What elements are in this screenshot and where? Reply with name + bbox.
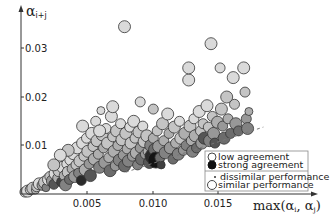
- similar-performance-marker-icon: [208, 181, 217, 190]
- data-point: [148, 104, 158, 114]
- y-axis-label: αi+j: [26, 3, 47, 20]
- data-point: [245, 108, 253, 116]
- y-ticks: 0.03 0.02 0.01: [21, 43, 47, 151]
- data-point: [94, 125, 106, 137]
- data-point: [116, 119, 126, 129]
- data-point: [107, 101, 119, 113]
- strong-agreement-marker-icon: [208, 161, 216, 169]
- data-point: [215, 63, 225, 73]
- data-point: [238, 62, 250, 74]
- legend-label: similar performance: [218, 179, 314, 190]
- x-tick-label: 0.015: [204, 198, 233, 209]
- data-point: [215, 103, 227, 115]
- data-point: [48, 159, 60, 171]
- x-tick-label: 0.010: [139, 198, 168, 209]
- data-point: [157, 161, 165, 169]
- y-tick-label: 0.02: [25, 92, 47, 103]
- dissimilar-performance-marker-icon: [214, 176, 216, 178]
- data-point: [175, 116, 185, 126]
- data-point: [205, 38, 217, 50]
- data-point: [183, 62, 195, 74]
- data-point: [135, 97, 145, 107]
- legend-label: strong agreement: [218, 159, 304, 170]
- y-tick-label: 0.01: [25, 140, 47, 151]
- data-point: [201, 100, 213, 112]
- x-tick-label: 0.005: [73, 198, 102, 209]
- legend: low agreement strong agreement dissimila…: [205, 151, 329, 191]
- data-point: [162, 108, 174, 120]
- data-point: [227, 72, 239, 84]
- data-point: [240, 87, 250, 97]
- data-point: [84, 170, 96, 182]
- data-point: [230, 99, 240, 109]
- data-point: [77, 120, 89, 132]
- x-axis-arrow-icon: [311, 192, 318, 197]
- scatter-chart: 0.03 0.02 0.01 αi+j 0.005 0.010 0.015 ma…: [0, 0, 333, 219]
- x-axis-label: max(αi, αj): [253, 198, 321, 214]
- data-point: [119, 21, 131, 33]
- low-agreement-marker-icon: [208, 153, 216, 161]
- data-point: [97, 107, 105, 115]
- y-tick-label: 0.03: [25, 43, 47, 54]
- data-point: [183, 74, 195, 86]
- y-axis-arrow-icon: [19, 5, 24, 12]
